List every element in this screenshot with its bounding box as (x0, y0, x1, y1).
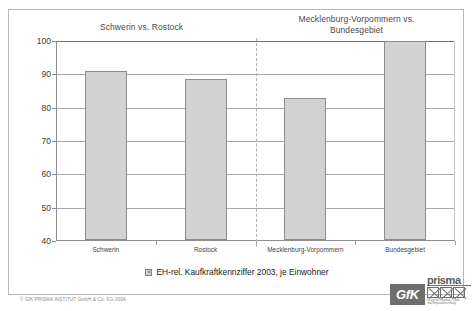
legend-label: EH-rel. Kaufkraftkennziffer 2003, je Ein… (156, 267, 328, 277)
gfk-prisma-logo: GfK prisma Institut für Handels-, Stadt-… (390, 273, 473, 305)
group-title-left: Schwerin vs. Rostock (39, 22, 244, 33)
group-divider (256, 38, 257, 247)
x-axis-category-label: Rostock (156, 246, 256, 253)
y-axis-tick-label: 80 (42, 103, 51, 113)
prisma-wordmark: prisma Institut für Handels-, Stadt-und … (427, 275, 471, 305)
logo-tagline: Institut für Handels-, Stadt-und Regiona… (427, 299, 471, 306)
x-axis-category-label: Schwerin (56, 246, 156, 253)
x-box-icon (440, 287, 452, 298)
x-axis-category-label: Mecklenburg-Vorpommern (256, 246, 356, 253)
x-axis-tick-mark (455, 241, 456, 245)
axis-left (56, 41, 57, 241)
x-axis-tick-mark (355, 241, 356, 245)
bar (384, 41, 426, 240)
copyright-notice: © GfK PRISMA INSTITUT GmbH & Co. KG 2004 (20, 297, 126, 302)
group-title-right: Mecklenburg-Vorpommern vs.Bundesgebiet (254, 14, 459, 35)
x-axis-category-label: Bundesgebiet (355, 246, 455, 253)
y-axis-tick-mark (52, 241, 56, 242)
gfk-wordmark: GfK (390, 284, 425, 305)
prisma-x-pattern-icon (427, 287, 471, 298)
y-axis-tick-label: 40 (42, 236, 51, 246)
axis-right (454, 41, 455, 241)
y-axis-tick-label: 70 (42, 136, 51, 146)
chart-frame: Schwerin vs. Rostock Mecklenburg-Vorpomm… (8, 9, 464, 295)
y-axis-tick-label: 50 (42, 203, 51, 213)
x-box-icon (453, 287, 465, 298)
plot-area: 405060708090100 (56, 41, 455, 241)
x-box-icon (427, 287, 439, 298)
prisma-text: prisma (427, 275, 471, 286)
bar (284, 98, 326, 240)
x-axis-tick-mark (156, 241, 157, 245)
bar (85, 71, 127, 240)
legend-swatch-icon (145, 269, 152, 276)
y-axis-tick-label: 90 (42, 69, 51, 79)
y-axis-tick-label: 100 (37, 36, 51, 46)
y-axis-tick-label: 60 (42, 169, 51, 179)
bar (185, 79, 227, 240)
